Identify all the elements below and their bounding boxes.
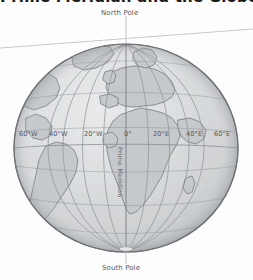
longitude-label-60w: 60°W xyxy=(19,130,38,138)
prime-meridian-label: Prime Meridian xyxy=(117,147,124,198)
longitude-label-0: 0° xyxy=(124,130,132,138)
longitude-label-40w: 40°W xyxy=(49,130,68,138)
north-pole-label: North Pole xyxy=(101,9,138,17)
longitude-label-20e: 20°E xyxy=(153,130,169,138)
longitude-label-40e: 40°E xyxy=(186,130,202,138)
longitude-label-60e: 60°E xyxy=(214,130,230,138)
south-pole-marker xyxy=(119,247,133,251)
globe-figure: Prime Meridian and the Globe North Pole … xyxy=(0,0,253,280)
figure-title-cropped: Prime Meridian and the Globe xyxy=(0,0,253,7)
north-pole-marker xyxy=(125,44,128,47)
globe-svg xyxy=(0,0,253,280)
longitude-label-20w: 20°W xyxy=(84,130,103,138)
figure-title-text: Prime Meridian and the Globe xyxy=(0,0,253,6)
south-pole-label: South Pole xyxy=(102,264,140,272)
